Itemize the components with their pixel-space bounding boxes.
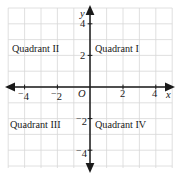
y-tick-label-neg4: −4 <box>76 146 87 160</box>
x-tick-label-2: 2 <box>120 89 125 100</box>
y-tick-label-2: 2 <box>80 51 85 62</box>
x-tick-label-neg2: −2 <box>51 89 62 103</box>
coordinate-plane-figure: x y O −4 −2 2 4 4 2 −2 −4 Quadrant I Qua… <box>0 0 180 175</box>
x-axis-label: x <box>166 90 171 101</box>
quadrant-1-label: Quadrant I <box>95 44 139 54</box>
minus-sign-icon: − <box>76 145 81 156</box>
x-tick-label-4: 4 <box>152 89 157 100</box>
origin-label: O <box>78 89 86 100</box>
minus-sign-icon: − <box>18 88 23 99</box>
minus-sign-icon: − <box>51 88 56 99</box>
x-tick-label-neg4: −4 <box>18 89 29 103</box>
quadrant-4-label: Quadrant IV <box>95 120 146 130</box>
y-tick-label-4: 4 <box>80 19 85 30</box>
quadrant-2-label: Quadrant II <box>12 44 59 54</box>
minus-sign-icon: − <box>76 113 81 124</box>
quadrant-3-label: Quadrant III <box>10 120 61 130</box>
y-tick-label-neg2: −2 <box>76 114 87 128</box>
